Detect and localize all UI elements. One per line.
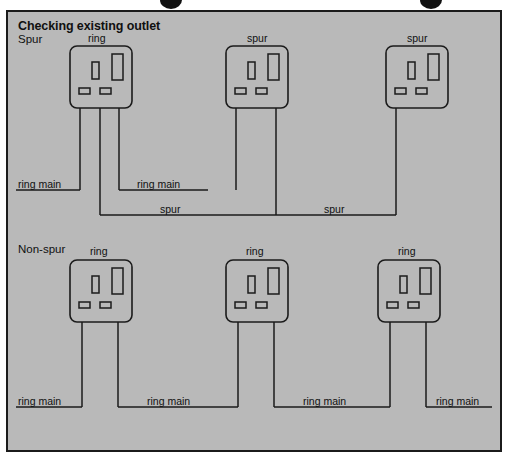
nonspur-wire-label-2: ring main	[147, 396, 190, 407]
spur-socket-3-face	[386, 46, 448, 108]
wiring-diagram-svg	[8, 12, 500, 450]
nonspur-wire-label-1: ring main	[18, 396, 61, 407]
diagram-panel: Checking existing outlet Spur ring spur …	[6, 10, 502, 452]
spur-wire-label-ringmain-mid: ring main	[137, 179, 180, 190]
spur-socket-3-label: spur	[407, 33, 427, 44]
spur-wire-label-ringmain-left: ring main	[18, 179, 61, 190]
spur-wire-label-spur-left: spur	[160, 204, 180, 215]
section-label-spur: Spur	[18, 34, 42, 46]
section-label-non-spur: Non-spur	[18, 244, 65, 256]
nonspur-socket-2-label: ring	[246, 246, 264, 257]
binding-mark-right-icon	[420, 0, 442, 9]
nonspur-socket-3-face	[378, 260, 440, 322]
spur-socket-1-label: ring	[88, 33, 106, 44]
nonspur-socket-1-label: ring	[90, 246, 108, 257]
page-title: Checking existing outlet	[18, 20, 160, 33]
spur-socket-2-label: spur	[247, 33, 267, 44]
nonspur-wire-label-3: ring main	[303, 396, 346, 407]
nonspur-wire-label-4: ring main	[436, 396, 479, 407]
nonspur-socket-3-label: ring	[398, 246, 416, 257]
diagram-page: Checking existing outlet Spur ring spur …	[0, 0, 510, 461]
spur-socket-1-face	[70, 46, 132, 108]
nonspur-socket-1-face	[70, 260, 132, 322]
spur-wire-label-spur-right: spur	[324, 204, 344, 215]
spur-socket-2-face	[226, 46, 288, 108]
nonspur-socket-2-face	[226, 260, 288, 322]
binding-mark-left-icon	[160, 0, 182, 9]
